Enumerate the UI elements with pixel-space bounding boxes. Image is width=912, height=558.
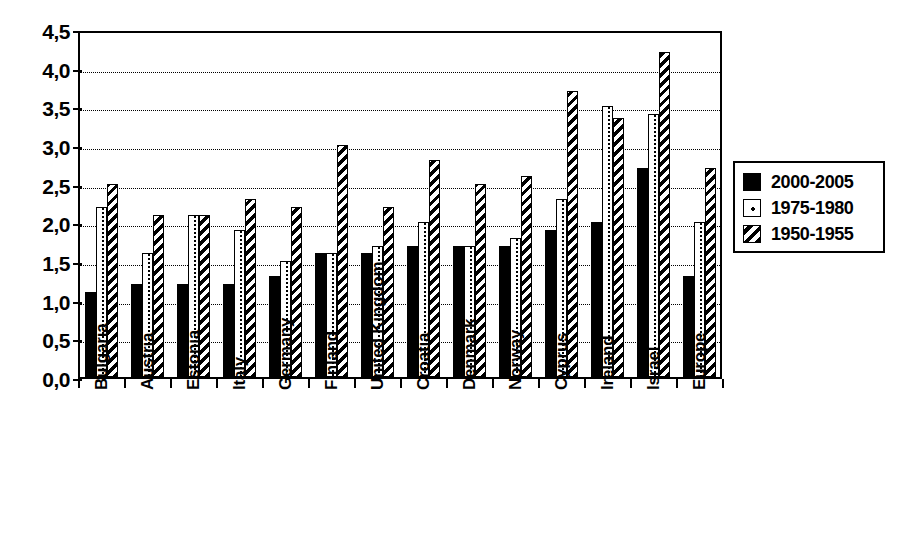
white-dotted-swatch xyxy=(743,199,761,217)
bars-layer xyxy=(80,33,720,377)
bar xyxy=(705,168,716,377)
bar xyxy=(269,276,280,377)
y-axis-tick-mark xyxy=(73,31,82,33)
y-axis-tick-mark xyxy=(73,224,82,226)
bar xyxy=(613,118,624,377)
bar-chart: 0,00,51,01,52,02,53,03,54,04,5 BulgariaA… xyxy=(0,0,912,558)
plot-area xyxy=(78,31,722,379)
bar xyxy=(475,184,486,377)
legend-item: 2000-2005 xyxy=(743,169,873,195)
y-axis-tick-label: 4,5 xyxy=(4,21,70,42)
y-axis-tick-label: 1,5 xyxy=(4,253,70,274)
y-axis-tick-label: 3,5 xyxy=(4,98,70,119)
legend-item: 1950-1955 xyxy=(743,221,873,247)
x-axis-tick-mark xyxy=(492,379,494,388)
y-axis-tick-mark xyxy=(73,263,82,265)
x-axis-tick-mark xyxy=(630,379,632,388)
bar xyxy=(188,215,199,377)
bar xyxy=(429,160,440,377)
y-axis-tick-mark xyxy=(73,302,82,304)
y-axis-tick-mark xyxy=(73,186,82,188)
bar xyxy=(591,222,602,377)
bar xyxy=(648,114,659,377)
bar xyxy=(659,52,670,377)
bar xyxy=(223,284,234,377)
y-axis-tick-label: 1,0 xyxy=(4,291,70,312)
bar xyxy=(383,207,394,377)
bar xyxy=(567,91,578,377)
legend-item: 1975-1980 xyxy=(743,195,873,221)
bar xyxy=(85,292,96,377)
bar xyxy=(234,230,245,377)
bar xyxy=(683,276,694,377)
bar xyxy=(107,184,118,377)
legend-item-label: 1950-1955 xyxy=(771,224,853,245)
x-axis-tick-mark xyxy=(538,379,540,388)
x-axis-tick-mark xyxy=(446,379,448,388)
x-axis-tick-mark xyxy=(584,379,586,388)
bar xyxy=(153,215,164,377)
bar xyxy=(131,284,142,377)
y-axis-tick-mark xyxy=(73,340,82,342)
bar xyxy=(556,199,567,377)
y-axis-tick-mark xyxy=(73,108,82,110)
bar xyxy=(521,176,532,377)
bar xyxy=(372,246,383,377)
bar xyxy=(245,199,256,377)
y-axis-tick-label: 3,0 xyxy=(4,137,70,158)
bar xyxy=(407,246,418,377)
y-axis-tick-label: 2,0 xyxy=(4,214,70,235)
bar xyxy=(326,253,337,377)
y-axis-tick-label: 0,0 xyxy=(4,369,70,390)
bar xyxy=(499,246,510,377)
x-axis-tick-mark xyxy=(354,379,356,388)
solid-black-swatch xyxy=(743,173,761,191)
bar xyxy=(315,253,326,377)
bar xyxy=(177,284,188,377)
bar xyxy=(199,215,210,377)
bar xyxy=(337,145,348,377)
y-axis-tick-mark xyxy=(73,70,82,72)
bar xyxy=(291,207,302,377)
x-axis-tick-mark xyxy=(262,379,264,388)
bar xyxy=(453,246,464,377)
chart-legend: 2000-20051975-19801950-1955 xyxy=(733,161,885,253)
legend-item-label: 1975-1980 xyxy=(771,198,853,219)
bar xyxy=(510,238,521,377)
bar xyxy=(361,253,372,377)
bar xyxy=(602,106,613,377)
y-axis-tick-label: 2,5 xyxy=(4,175,70,196)
x-axis-tick-mark xyxy=(400,379,402,388)
legend-item-label: 2000-2005 xyxy=(771,172,853,193)
bar xyxy=(142,253,153,377)
y-axis-tick-mark xyxy=(73,147,82,149)
y-axis-tick-labels: 0,00,51,01,52,02,53,03,54,04,5 xyxy=(0,0,70,558)
x-axis-tick-mark xyxy=(78,379,80,388)
y-axis-tick-label: 0,5 xyxy=(4,330,70,351)
x-axis-tick-mark xyxy=(124,379,126,388)
bar xyxy=(280,261,291,377)
bar xyxy=(96,207,107,377)
x-axis-tick-mark xyxy=(676,379,678,388)
x-axis-tick-mark xyxy=(170,379,172,388)
bar xyxy=(694,222,705,377)
bar xyxy=(464,246,475,377)
bar xyxy=(545,230,556,377)
x-axis-tick-mark xyxy=(216,379,218,388)
y-axis-tick-label: 4,0 xyxy=(4,59,70,80)
diagonal-hatch-swatch xyxy=(743,225,761,243)
bar xyxy=(418,222,429,377)
bar xyxy=(637,168,648,377)
x-axis-tick-mark xyxy=(308,379,310,388)
x-axis-tick-mark xyxy=(722,379,724,388)
